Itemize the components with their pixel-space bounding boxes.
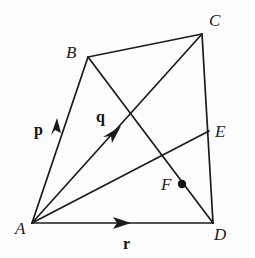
vertex-label-C: C bbox=[209, 11, 221, 30]
vertex-label-A: A bbox=[14, 219, 26, 238]
figure-canvas: A B C D E F p q r bbox=[0, 0, 255, 258]
vertex-label-F: F bbox=[160, 175, 172, 194]
vector-label-q: q bbox=[96, 108, 105, 126]
vector-arrowheads bbox=[51, 118, 131, 229]
point-F-dot bbox=[178, 180, 186, 188]
arrowhead-p bbox=[51, 118, 61, 135]
vertex-label-B: B bbox=[66, 43, 77, 62]
vector-diagram-figure: A B C D E F p q r bbox=[0, 0, 255, 258]
vertex-label-E: E bbox=[214, 122, 226, 141]
vector-label-p: p bbox=[34, 121, 43, 139]
vertex-label-D: D bbox=[213, 225, 227, 244]
vector-label-r: r bbox=[123, 235, 130, 252]
edge-CD bbox=[202, 34, 213, 223]
